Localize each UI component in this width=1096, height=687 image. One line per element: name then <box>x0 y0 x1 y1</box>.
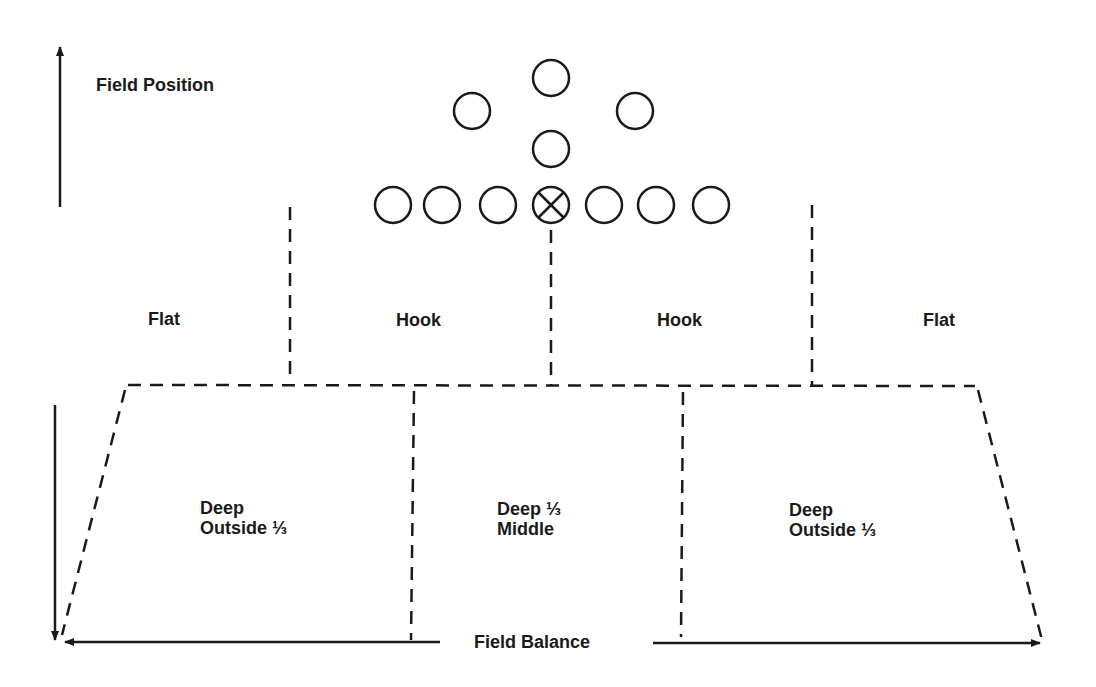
player-circle <box>424 187 460 223</box>
deep-zone-left-edge <box>62 390 125 635</box>
player-circle <box>586 187 622 223</box>
center-circle-x-icon <box>533 187 569 223</box>
zone-label-deep-outside-left: Deep Outside ⅓ <box>200 498 287 538</box>
deep-divider-left <box>411 391 414 640</box>
zone-label-deep-middle: Deep ⅓ Middle <box>497 499 561 539</box>
coverage-diagram <box>0 0 1096 687</box>
field-position-label: Field Position <box>96 75 214 95</box>
player-circle <box>375 187 411 223</box>
zone-label-flat-left: Flat <box>148 309 180 329</box>
player-circle <box>693 187 729 223</box>
offense-formation <box>375 60 729 223</box>
player-circle <box>533 131 569 167</box>
player-circle <box>638 187 674 223</box>
deep-zone-top-line <box>128 385 975 386</box>
zone-label-line: Deep ⅓ <box>497 499 561 519</box>
zone-label-line: Deep <box>789 500 876 520</box>
player-circle <box>533 60 569 96</box>
player-circle <box>454 93 490 129</box>
zone-label-line: Outside ⅓ <box>789 520 876 540</box>
deep-divider-right <box>681 392 683 637</box>
player-circle <box>617 93 653 129</box>
player-circle <box>480 187 516 223</box>
deep-zone-right-edge <box>978 390 1042 640</box>
zone-label-line: Deep <box>200 498 287 518</box>
zone-label-line: Outside ⅓ <box>200 518 287 538</box>
field-balance-label: Field Balance <box>474 632 590 652</box>
zone-label-hook-right: Hook <box>657 310 702 330</box>
zone-label-flat-right: Flat <box>923 310 955 330</box>
zone-label-line: Middle <box>497 519 561 539</box>
zone-boundaries <box>62 205 1042 640</box>
zone-label-deep-outside-right: Deep Outside ⅓ <box>789 500 876 540</box>
zone-label-hook-left: Hook <box>396 310 441 330</box>
